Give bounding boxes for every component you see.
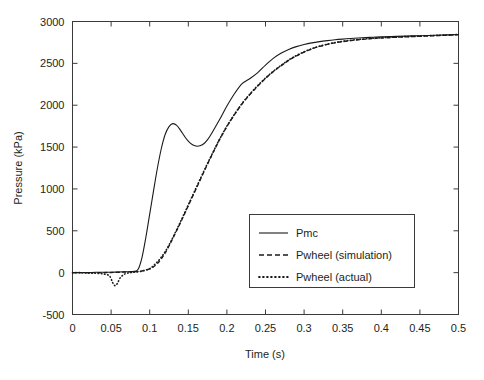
- chart-legend: PmcPwheel (simulation)Pwheel (actual): [250, 215, 415, 288]
- x-tick-label: 0.05: [100, 322, 121, 334]
- x-tick-label: 0.4: [374, 322, 389, 334]
- x-tick-label: 0.1: [142, 322, 157, 334]
- x-tick-label: 0.25: [255, 322, 276, 334]
- x-axis-tick-labels: 00.050.10.150.20.250.30.350.40.450.5: [69, 322, 466, 334]
- x-tick-label: 0: [69, 322, 75, 334]
- y-tick-label: 2500: [40, 57, 64, 69]
- x-axis-label: Time (s): [245, 348, 285, 360]
- y-tick-label: 1500: [40, 141, 64, 153]
- y-tick-label: 1000: [40, 183, 64, 195]
- chart-figure: 00.050.10.150.20.250.30.350.40.450.5 -50…: [0, 0, 484, 380]
- x-tick-label: 0.5: [451, 322, 466, 334]
- y-tick-label: 2000: [40, 99, 64, 111]
- legend-label: Pwheel (actual): [296, 271, 372, 283]
- x-tick-label: 0.35: [332, 322, 353, 334]
- x-tick-label: 0.15: [178, 322, 199, 334]
- x-tick-label: 0.2: [219, 322, 234, 334]
- y-axis-label: Pressure (kPa): [12, 131, 24, 204]
- x-tick-label: 0.3: [296, 322, 311, 334]
- y-tick-label: -500: [42, 309, 64, 321]
- legend-label: Pwheel (simulation): [296, 249, 392, 261]
- y-axis-tick-labels: -500050010001500200025003000: [40, 16, 64, 321]
- y-tick-label: 3000: [40, 16, 64, 28]
- x-tick-label: 0.45: [409, 322, 430, 334]
- y-tick-label: 0: [58, 267, 64, 279]
- y-tick-label: 500: [46, 225, 64, 237]
- pressure-vs-time-chart: 00.050.10.150.20.250.30.350.40.450.5 -50…: [0, 0, 484, 380]
- legend-label: Pmc: [296, 227, 319, 239]
